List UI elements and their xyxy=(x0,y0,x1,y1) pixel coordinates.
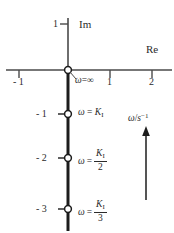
omega-symbol: ω xyxy=(78,107,85,117)
real-tick-label-minus1: - 1 xyxy=(13,77,24,87)
fraction-ki-over-3: KI 3 xyxy=(94,200,107,224)
imag-tick-label-minus1: - 1 xyxy=(36,109,47,119)
fraction-numerator: KI xyxy=(94,200,107,211)
equals-symbol: = xyxy=(87,208,92,218)
infinity-symbol: ∞ xyxy=(87,75,94,85)
fraction-denominator: 3 xyxy=(94,214,107,224)
real-tick-label-1: 1 xyxy=(107,77,112,87)
omega-symbol: ω xyxy=(78,157,85,167)
real-axis-label: Re xyxy=(146,44,158,55)
real-tick-label-2: 2 xyxy=(149,77,154,87)
annotation-omega-infinity: ω=∞ xyxy=(75,76,94,86)
annotation-omega-ki-over-3: ω = KI 3 xyxy=(78,201,107,225)
imaginary-axis-label: Im xyxy=(79,19,91,30)
direction-arrow-head xyxy=(142,126,150,136)
fraction-denominator: 2 xyxy=(94,163,107,173)
annotation-omega-ki: ω = KI xyxy=(78,108,104,119)
equals-symbol: = xyxy=(87,157,92,167)
nyquist-plot-figure: Im Re 1 - 1 - 2 - 3 - 1 1 2 ω=∞ ω = KI ω… xyxy=(0,0,174,233)
gain-subscript: I xyxy=(101,111,103,119)
data-point-marker-minus3 xyxy=(65,206,72,213)
omega-symbol: ω xyxy=(78,208,85,218)
direction-arrow-label: ω/s−1 xyxy=(128,113,149,124)
equals-symbol: = xyxy=(87,107,92,117)
data-point-marker-minus2 xyxy=(65,155,72,162)
omega-symbol: ω xyxy=(75,75,82,85)
imag-tick-label-minus3: - 3 xyxy=(36,204,47,214)
omega-symbol: ω xyxy=(128,113,135,123)
gain-subscript: I xyxy=(102,152,104,160)
imag-tick-label-minus2: - 2 xyxy=(36,153,47,163)
annotation-omega-ki-over-2: ω = KI 2 xyxy=(78,150,107,174)
imag-tick-label-1: 1 xyxy=(53,19,58,29)
unit-exponent: −1 xyxy=(141,112,148,120)
gain-subscript: I xyxy=(102,203,104,211)
data-point-marker-minus1 xyxy=(65,111,72,118)
fraction-ki-over-2: KI 2 xyxy=(94,149,107,173)
fraction-numerator: KI xyxy=(94,149,107,160)
